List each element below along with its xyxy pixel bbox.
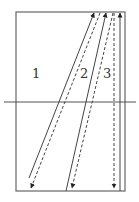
ray-2-dashed-arrow xyxy=(72,13,113,188)
ray-1-dashed-arrow xyxy=(31,13,100,188)
ray-1-solid-arrow xyxy=(29,13,94,178)
ray-label-2: 2 xyxy=(80,66,88,81)
labels-group: 123 xyxy=(32,66,111,81)
ray-label-1: 1 xyxy=(32,66,40,81)
refraction-diagram: 123 xyxy=(0,0,139,202)
ray-label-3: 3 xyxy=(103,66,111,81)
